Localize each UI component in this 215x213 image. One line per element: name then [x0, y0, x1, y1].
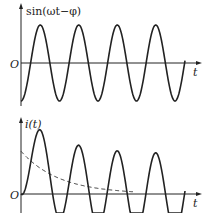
bottom-chart: i(t) O t — [10, 117, 202, 213]
decaying-dc-curve — [21, 151, 133, 192]
bottom-y-arrow-icon — [19, 117, 23, 123]
top-x-arrow-icon — [196, 61, 202, 65]
top-y-arrow-icon — [19, 3, 23, 9]
bottom-x-arrow-icon — [196, 192, 202, 196]
bottom-origin-label: O — [10, 189, 19, 202]
top-chart: sin(ωt−φ) O t — [10, 3, 202, 106]
chart-figure: sin(ωt−φ) O t i(t) O t — [0, 0, 215, 213]
top-x-label: t — [193, 66, 198, 79]
top-y-label: sin(ωt−φ) — [26, 5, 81, 18]
bottom-x-label: t — [193, 197, 198, 210]
top-origin-label: O — [10, 58, 19, 71]
